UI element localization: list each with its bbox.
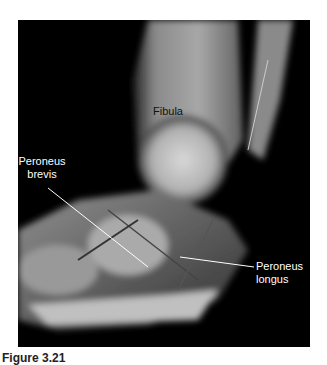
- mri-image: Fibula Peroneus brevis Peroneus longus: [18, 20, 310, 347]
- peroneus-brevis-line2: brevis: [18, 168, 82, 181]
- mri-scan-graphic: [18, 20, 310, 347]
- peroneus-longus-line2: longus: [256, 273, 303, 286]
- peroneus-longus-line1: Peroneus: [256, 260, 303, 273]
- fibula-label: Fibula: [153, 105, 183, 118]
- fibula-label-text: Fibula: [153, 105, 183, 117]
- figure-caption: Figure 3.21: [2, 351, 65, 365]
- peroneus-brevis-line1: Peroneus: [18, 155, 82, 168]
- peroneus-brevis-label: Peroneus brevis: [18, 155, 82, 181]
- peroneus-longus-label: Peroneus longus: [256, 260, 303, 286]
